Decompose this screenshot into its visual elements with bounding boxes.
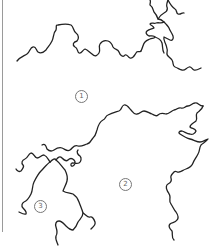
coastline-map bbox=[0, 0, 214, 246]
peninsula-side-branch bbox=[155, 37, 164, 53]
east-coastline bbox=[166, 106, 208, 240]
region-2-label: 2 bbox=[119, 178, 132, 191]
upper-right-spur bbox=[168, 0, 184, 14]
upper-coastline bbox=[17, 24, 141, 61]
region-3-lower-stub bbox=[83, 213, 95, 229]
branching-peninsula bbox=[141, 0, 164, 51]
middle-coastline bbox=[42, 103, 203, 151]
region-3-label: 3 bbox=[34, 200, 47, 213]
region-3-northwest-coast bbox=[16, 153, 50, 171]
peninsula-top-branch bbox=[158, 0, 168, 19]
peninsula-right-branch bbox=[164, 22, 201, 70]
region-3-outline bbox=[50, 159, 83, 245]
region-1-label: 1 bbox=[75, 90, 88, 103]
